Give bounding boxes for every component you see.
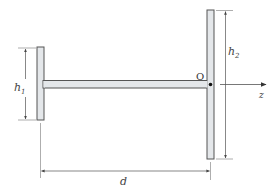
origin-label: O — [196, 71, 204, 82]
d-label: d — [120, 175, 127, 188]
beam-section-diagram: O z h 1 h 2 d — [0, 0, 279, 195]
origin-point — [209, 83, 213, 87]
h2-subscript: 2 — [234, 52, 240, 60]
d-dimension: d — [41, 123, 211, 188]
web — [43, 81, 209, 89]
z-axis-label: z — [258, 90, 264, 100]
section-shape — [37, 10, 214, 159]
h1-dimension: h 1 — [14, 48, 36, 120]
h1-subscript: 1 — [21, 88, 25, 96]
